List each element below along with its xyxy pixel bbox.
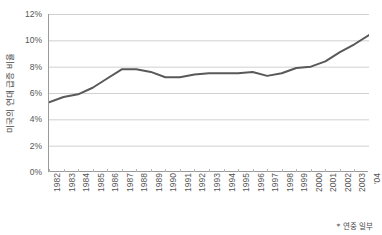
x-tick-label: 2002	[343, 173, 353, 192]
x-tick-label: 1997	[270, 173, 280, 192]
x-tick-label: 2003	[357, 173, 367, 192]
y-axis-title-label: 미국의 연대 급증 비율	[3, 53, 15, 133]
data-series-line	[49, 35, 369, 102]
y-tick-label: 0%	[30, 167, 42, 177]
y-tick-label: 4%	[30, 114, 42, 124]
plot-area	[48, 14, 368, 172]
y-axis-title: 미국의 연대 급증 비율	[0, 14, 18, 172]
plot-svg	[49, 14, 369, 172]
x-tick-label: 1985	[96, 173, 106, 192]
x-tick-label: '04	[372, 173, 382, 184]
x-tick-label: 1998	[285, 173, 295, 192]
y-tick-label: 10%	[25, 35, 42, 45]
x-tick-label: 1982	[52, 173, 62, 192]
x-tick-label: 1989	[154, 173, 164, 192]
x-tick-label: 1994	[227, 173, 237, 192]
x-axis-ticks	[50, 169, 370, 172]
x-tick-label: 1987	[125, 173, 135, 192]
gridlines	[49, 15, 369, 147]
x-tick-label: 1986	[110, 173, 120, 192]
y-tick-label: 2%	[30, 141, 42, 151]
y-tick-label: 8%	[30, 62, 42, 72]
x-tick-label: 1984	[81, 173, 91, 192]
footnote: * 연중 일부	[336, 220, 373, 231]
x-tick-label: 1983	[67, 173, 77, 192]
x-tick-label: 1990	[168, 173, 178, 192]
x-tick-label: 2000	[314, 173, 324, 192]
x-tick-label: 2001	[328, 173, 338, 192]
x-tick-label: 1988	[139, 173, 149, 192]
y-tick-label: 12%	[25, 9, 42, 19]
x-tick-label: 1999	[299, 173, 309, 192]
y-axis-tick-labels: 12%10%8%6%4%2%0%	[18, 14, 46, 172]
x-tick-label: 1993	[212, 173, 222, 192]
x-tick-label: 1991	[183, 173, 193, 192]
x-tick-label: 1992	[197, 173, 207, 192]
y-tick-label: 6%	[30, 88, 42, 98]
x-axis-tick-labels: 1982198319841985198619871988198919901991…	[48, 173, 368, 213]
x-tick-label: 1996	[256, 173, 266, 192]
x-tick-label: 1995	[241, 173, 251, 192]
